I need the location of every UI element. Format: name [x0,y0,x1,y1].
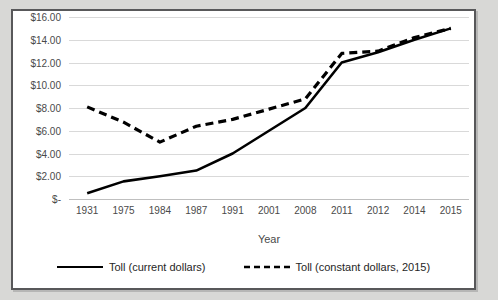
chart-frame: $-$2.00$4.00$6.00$8.00$10.00$12.00$14.00… [11,9,476,290]
gridline [69,199,469,200]
chart-legend: Toll (current dollars)Toll (constant dol… [13,261,474,273]
chart-page: $-$2.00$4.00$6.00$8.00$10.00$12.00$14.00… [0,0,498,300]
legend-key-dashed [244,262,290,272]
x-axis-tick-labels: 1931197519841987199120012008201120122014… [69,205,469,221]
x-axis-tick-label: 1984 [149,205,171,216]
x-axis-tick-label: 1975 [112,205,134,216]
legend-label: Toll (constant dollars, 2015) [296,261,431,273]
series-lines [69,17,469,199]
y-axis-tick-label: $2.00 [36,171,61,182]
y-axis-tick-label: $8.00 [36,103,61,114]
plot-wrapper: $-$2.00$4.00$6.00$8.00$10.00$12.00$14.00… [13,11,474,288]
y-axis-tick-label: $4.00 [36,148,61,159]
y-axis-tick-label: $6.00 [36,125,61,136]
plot-area [69,17,469,199]
x-axis-tick-label: 2001 [258,205,280,216]
x-axis-tick-label: 2012 [367,205,389,216]
legend-key-solid [57,262,103,272]
y-axis-tick-label: $16.00 [30,12,61,23]
x-axis-tick-label: 1991 [222,205,244,216]
x-axis-tick-label: 2014 [403,205,425,216]
x-axis-tick-label: 1987 [185,205,207,216]
legend-item[interactable]: Toll (constant dollars, 2015) [244,261,431,273]
x-axis-title: Year [69,233,469,245]
clipped-header-text [0,0,498,9]
y-axis-tick-label: $10.00 [30,80,61,91]
legend-label: Toll (current dollars) [109,261,206,273]
x-axis-tick-label: 2011 [331,205,353,216]
series-line [87,28,451,193]
x-axis-tick-label: 2008 [294,205,316,216]
x-axis-tick-label: 2015 [440,205,462,216]
x-axis-tick-label: 1931 [76,205,98,216]
legend-item[interactable]: Toll (current dollars) [57,261,206,273]
y-axis-tick-labels: $-$2.00$4.00$6.00$8.00$10.00$12.00$14.00… [13,11,65,288]
y-axis-tick-label: $14.00 [30,34,61,45]
y-axis-tick-label: $12.00 [30,57,61,68]
y-axis-tick-label: $- [52,194,61,205]
